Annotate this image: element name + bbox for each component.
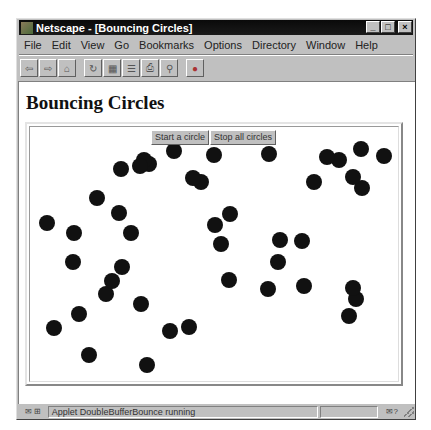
netscape-app-icon: [21, 22, 33, 34]
print-button[interactable]: ⎙: [141, 59, 159, 77]
menu-window[interactable]: Window: [301, 39, 350, 51]
find-icon: ⚲: [166, 63, 173, 74]
menu-file[interactable]: File: [19, 39, 47, 51]
page-content[interactable]: Bouncing Circles Start a circle Stop all…: [18, 81, 415, 404]
find-button[interactable]: ⚲: [160, 59, 178, 77]
bouncing-circle: [104, 273, 120, 289]
status-message: Applet DoubleBufferBounce running: [48, 406, 319, 418]
bouncing-circle: [376, 148, 392, 164]
bouncing-circle: [206, 147, 222, 163]
close-button[interactable]: ×: [398, 21, 412, 33]
back-icon: ⇦: [25, 63, 33, 74]
menu-directory[interactable]: Directory: [247, 39, 301, 51]
mail-security-icon[interactable]: ✉?: [380, 407, 404, 416]
forward-button[interactable]: ⇨: [39, 59, 57, 77]
images-button[interactable]: ▦: [103, 59, 121, 77]
menu-edit[interactable]: Edit: [47, 39, 76, 51]
bouncing-circle: [345, 169, 361, 185]
stop-icon: ●: [192, 63, 198, 74]
menu-go[interactable]: Go: [109, 39, 134, 51]
bouncing-circle: [345, 280, 361, 296]
images-icon: ▦: [108, 63, 117, 74]
connection-icon: ✉ ⊞: [18, 405, 48, 418]
bouncing-circle: [39, 215, 55, 231]
bouncing-circle: [294, 233, 310, 249]
bouncing-circle: [181, 319, 197, 335]
menu-bar: File Edit View Go Bookmarks Options Dire…: [19, 36, 413, 54]
maximize-button[interactable]: □: [381, 21, 395, 33]
window-controls: _ □ ×: [365, 21, 412, 33]
window-title: Netscape - [Bouncing Circles]: [36, 22, 192, 34]
bouncing-circle: [306, 174, 322, 190]
bouncing-circle: [71, 306, 87, 322]
bouncing-circle: [319, 149, 335, 165]
print-icon: ⎙: [146, 62, 154, 74]
bouncing-circle: [65, 254, 81, 270]
applet-frame: Start a circle Stop all circles: [25, 122, 403, 386]
bouncing-circle: [341, 308, 357, 324]
menu-help[interactable]: Help: [350, 39, 383, 51]
menu-bookmarks[interactable]: Bookmarks: [134, 39, 199, 51]
minimize-button[interactable]: _: [366, 21, 380, 33]
bouncing-circle: [89, 190, 105, 206]
open-button[interactable]: ☰: [122, 59, 140, 77]
bouncing-circle: [113, 161, 129, 177]
bouncing-circle: [114, 259, 130, 275]
back-button[interactable]: ⇦: [20, 59, 38, 77]
bouncing-circle: [166, 143, 182, 159]
bouncing-circle: [111, 205, 127, 221]
stop-all-circles-button[interactable]: Stop all circles: [210, 130, 276, 145]
bouncing-circle: [81, 347, 97, 363]
bouncing-circle: [162, 323, 178, 339]
bouncing-circle: [353, 141, 369, 157]
bouncing-circles-canvas[interactable]: Start a circle Stop all circles: [29, 126, 399, 382]
toolbar: ⇦ ⇨ ⌂ ↻ ▦ ☰ ⎙ ⚲ ●: [20, 57, 205, 79]
bouncing-circle: [260, 281, 276, 297]
menu-separator: [19, 54, 413, 56]
open-icon: ☰: [127, 63, 136, 74]
home-icon: ⌂: [64, 63, 70, 74]
reload-icon: ↻: [89, 63, 97, 74]
bouncing-circle: [139, 357, 155, 373]
menu-options[interactable]: Options: [199, 39, 247, 51]
progress-field: [320, 406, 378, 418]
status-bar: ✉ ⊞ Applet DoubleBufferBounce running ✉?: [18, 404, 414, 419]
bouncing-circle: [132, 158, 148, 174]
browser-window: Netscape - [Bouncing Circles] _ □ × File…: [16, 18, 416, 420]
bouncing-circle: [46, 320, 62, 336]
reload-button[interactable]: ↻: [84, 59, 102, 77]
bouncing-circle: [270, 254, 286, 270]
resize-grip[interactable]: [404, 407, 414, 417]
stop-button[interactable]: ●: [186, 59, 204, 77]
forward-icon: ⇨: [44, 63, 52, 74]
bouncing-circle: [213, 236, 229, 252]
bouncing-circle: [222, 206, 238, 222]
page-heading: Bouncing Circles: [26, 92, 164, 114]
bouncing-circle: [207, 217, 223, 233]
bouncing-circle: [296, 278, 312, 294]
bouncing-circle: [123, 225, 139, 241]
bouncing-circle: [261, 146, 277, 162]
bouncing-circle: [185, 170, 201, 186]
menu-view[interactable]: View: [76, 39, 110, 51]
bouncing-circle: [272, 232, 288, 248]
bouncing-circle: [221, 272, 237, 288]
title-bar[interactable]: Netscape - [Bouncing Circles] _ □ ×: [19, 20, 413, 35]
home-button[interactable]: ⌂: [58, 59, 76, 77]
start-circle-button[interactable]: Start a circle: [151, 130, 209, 145]
bouncing-circle: [66, 225, 82, 241]
bouncing-circle: [133, 296, 149, 312]
